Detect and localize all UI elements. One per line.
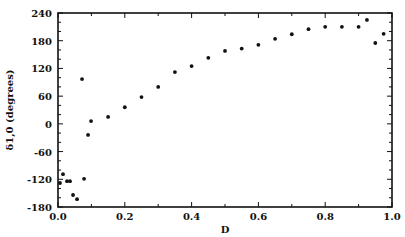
data-point — [223, 49, 227, 53]
data-point — [86, 133, 90, 137]
plot-frame — [58, 13, 392, 207]
y-axis-title: δ1,0 (degrees) — [4, 70, 16, 151]
x-tick-labels: 0.00.20.40.60.81.0 — [49, 211, 400, 222]
data-point — [173, 70, 177, 74]
data-point — [307, 27, 311, 31]
data-point — [206, 56, 210, 60]
data-point — [68, 179, 72, 183]
data-point — [273, 37, 277, 41]
axis-ticks — [58, 13, 392, 207]
data-point — [357, 25, 361, 29]
data-point — [80, 77, 84, 81]
data-point — [365, 18, 369, 22]
y-tick-label: -120 — [27, 174, 52, 185]
data-point — [373, 41, 377, 45]
data-point — [61, 172, 65, 176]
data-point — [58, 181, 62, 185]
y-tick-label: 180 — [31, 36, 52, 47]
x-tick-label: 1.0 — [383, 211, 400, 222]
data-point — [382, 32, 386, 36]
x-tick-label: 0.2 — [116, 211, 133, 222]
data-point — [240, 47, 244, 51]
data-points — [58, 18, 385, 201]
data-point — [156, 85, 160, 89]
data-point — [323, 25, 327, 29]
y-tick-label: 60 — [38, 91, 52, 102]
y-tick-label: 240 — [31, 8, 52, 19]
data-point — [71, 193, 75, 197]
y-tick-label: -60 — [34, 147, 52, 158]
data-point — [106, 115, 110, 119]
data-point — [123, 105, 127, 109]
data-point — [89, 119, 93, 123]
y-tick-label: 0 — [45, 119, 52, 130]
data-point — [75, 197, 79, 201]
x-axis-title: D — [221, 224, 230, 235]
y-tick-label: 120 — [31, 63, 52, 74]
data-point — [257, 43, 261, 47]
data-point — [82, 177, 86, 181]
data-point — [290, 32, 294, 36]
x-tick-label: 0.6 — [250, 211, 267, 222]
y-tick-label: -180 — [27, 202, 52, 213]
data-point — [340, 25, 344, 29]
scatter-chart: 0.00.20.40.60.81.0 240180120600-60-120-1… — [0, 0, 405, 237]
x-tick-label: 0.4 — [183, 211, 200, 222]
data-point — [140, 95, 144, 99]
y-tick-labels: 240180120600-60-120-180 — [27, 8, 52, 213]
data-point — [190, 64, 194, 68]
x-tick-label: 0.8 — [316, 211, 333, 222]
